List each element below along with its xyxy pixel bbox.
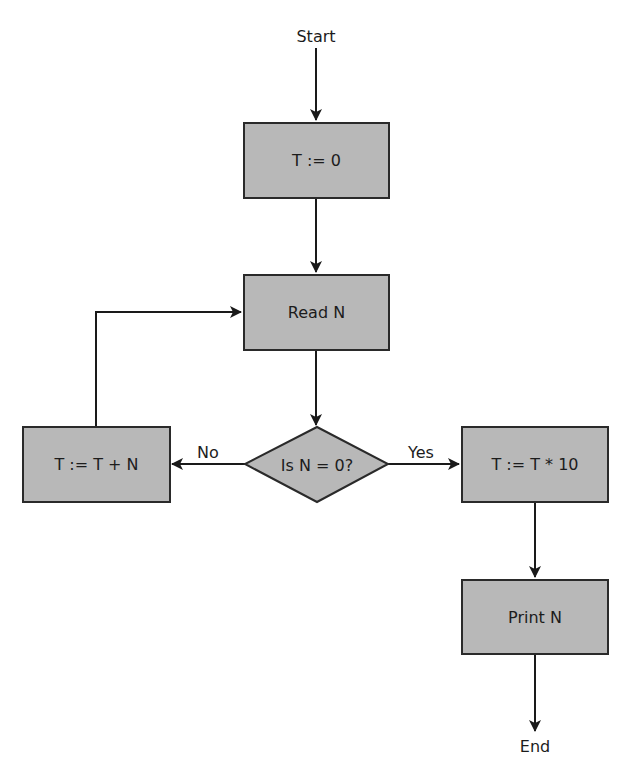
print-node-label: Print N: [508, 608, 562, 627]
yes-edge-label: Yes: [408, 443, 434, 462]
init-node-label: T := 0: [292, 151, 341, 170]
start-terminal-label: Start: [296, 27, 335, 46]
no-edge-label: No: [197, 443, 219, 462]
read-process-node: Read N: [243, 274, 390, 351]
flowchart-connectors: [0, 0, 627, 777]
init-process-node: T := 0: [243, 122, 390, 199]
add-node-label: T := T + N: [54, 455, 138, 474]
multiply-process-node: T := T * 10: [461, 426, 609, 503]
print-process-node: Print N: [461, 579, 609, 655]
decision-node-label: Is N = 0?: [281, 456, 353, 475]
read-node-label: Read N: [288, 303, 345, 322]
multiply-node-label: T := T * 10: [491, 455, 578, 474]
end-terminal-label: End: [520, 737, 550, 756]
add-process-node: T := T + N: [22, 426, 171, 503]
edge-add-to-read-loop: [96, 312, 241, 426]
